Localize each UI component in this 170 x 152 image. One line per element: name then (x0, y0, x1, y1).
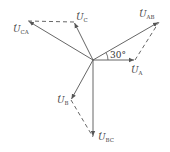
dashed-ua-uab (135, 22, 159, 60)
label-uc: ·UC (76, 13, 88, 24)
label-ua: ·UA (131, 66, 143, 77)
angle-label: 30° (110, 50, 126, 60)
phasor-ub (72, 60, 94, 99)
angle-arc (106, 53, 108, 61)
label-ubc: ·UBC (98, 133, 114, 144)
label-uab: ·UAB (139, 10, 155, 21)
label-ub: ·UB (57, 96, 69, 107)
dashed-uc-uca (28, 21, 74, 22)
label-uca: ·UCA (13, 25, 29, 36)
dashed-ub-ubc (71, 100, 93, 137)
